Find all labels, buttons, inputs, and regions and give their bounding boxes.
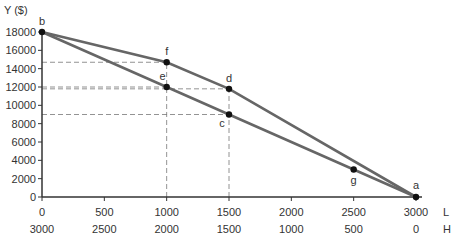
data-point-b	[39, 29, 45, 35]
y-tick-label: 10000	[5, 99, 36, 111]
point-label-e: e	[160, 70, 166, 82]
x-tick-label-H: 2500	[92, 223, 116, 235]
data-point-f	[163, 59, 169, 65]
data-point-a	[413, 194, 419, 200]
data-point-g	[350, 166, 356, 172]
y-tick-label: 8000	[12, 118, 36, 130]
x-tick-label-H: 1500	[217, 223, 241, 235]
y-tick-label: 14000	[5, 63, 36, 75]
y-tick-label: 16000	[5, 44, 36, 56]
point-label-g: g	[351, 174, 357, 186]
y-axis-title: Y ($)	[4, 4, 28, 16]
y-tick-label: 6000	[12, 136, 36, 148]
point-label-f: f	[165, 45, 169, 57]
x-tick-label-H: 0	[413, 223, 419, 235]
y-tick-label: 4000	[12, 154, 36, 166]
x-tick-label-L: 2000	[279, 206, 303, 218]
y-tick-label: 12000	[5, 81, 36, 93]
x-axis-title-H: H	[443, 223, 451, 235]
data-point-e	[163, 84, 169, 90]
y-tick-label: 18000	[5, 26, 36, 38]
x-tick-label-H: 2000	[154, 223, 178, 235]
budget-constraint-chart: 0200040006000800010000120001400016000180…	[0, 0, 453, 239]
x-tick-label-H: 500	[344, 223, 362, 235]
x-tick-label-L: 500	[95, 206, 113, 218]
x-tick-label-L: 1000	[154, 206, 178, 218]
y-tick-label: 2000	[12, 173, 36, 185]
x-tick-label-L: 3000	[404, 206, 428, 218]
x-tick-label-L: 0	[39, 206, 45, 218]
x-tick-label-L: 1500	[217, 206, 241, 218]
data-point-c	[226, 111, 232, 117]
x-axis-title-L: L	[443, 206, 449, 218]
data-point-d	[226, 86, 232, 92]
x-tick-label-L: 2500	[341, 206, 365, 218]
point-label-c: c	[219, 117, 225, 129]
x-tick-label-H: 3000	[30, 223, 54, 235]
point-label-a: a	[413, 179, 420, 191]
y-tick-label: 0	[30, 191, 36, 203]
point-label-b: b	[39, 15, 45, 27]
point-label-d: d	[226, 72, 232, 84]
x-tick-label-H: 1000	[279, 223, 303, 235]
